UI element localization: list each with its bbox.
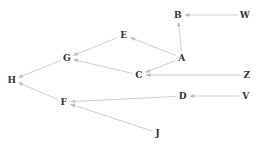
node-label: B	[174, 10, 182, 20]
node-G[interactable]: G	[63, 54, 71, 63]
edge-C-to-G	[74, 60, 132, 74]
node-V[interactable]: V	[242, 92, 249, 101]
edge-layer	[0, 0, 263, 145]
edge-D-to-F	[71, 96, 176, 101]
edge-F-to-H	[18, 83, 57, 100]
edge-G-to-H	[19, 61, 61, 78]
node-label: J	[156, 128, 161, 138]
node-label: E	[120, 30, 127, 40]
node-A[interactable]: A	[178, 54, 185, 63]
node-label: H	[7, 75, 16, 85]
node-Z[interactable]: Z	[243, 71, 250, 80]
node-H[interactable]: H	[7, 76, 16, 85]
node-label: Z	[243, 70, 250, 80]
node-F[interactable]: F	[61, 98, 68, 107]
node-label: V	[242, 91, 249, 101]
edge-A-to-B	[179, 22, 182, 51]
node-C[interactable]: C	[135, 71, 143, 80]
node-J[interactable]: J	[156, 129, 161, 138]
edge-E-to-G	[74, 38, 118, 56]
node-label: W	[240, 10, 251, 20]
edge-A-to-C	[146, 61, 176, 73]
node-label: C	[135, 70, 143, 80]
node-label: F	[61, 97, 68, 107]
edge-J-to-F	[71, 104, 152, 131]
edge-group	[18, 15, 240, 131]
node-B[interactable]: B	[174, 11, 182, 20]
node-D[interactable]: D	[179, 92, 187, 101]
node-label: A	[178, 53, 185, 63]
node-label: D	[179, 91, 187, 101]
edge-A-to-E	[131, 38, 176, 56]
node-E[interactable]: E	[120, 31, 127, 40]
node-W[interactable]: W	[240, 11, 251, 20]
node-label: G	[63, 53, 71, 63]
graph-canvas: B W E A G C Z H F D V J	[0, 0, 263, 145]
